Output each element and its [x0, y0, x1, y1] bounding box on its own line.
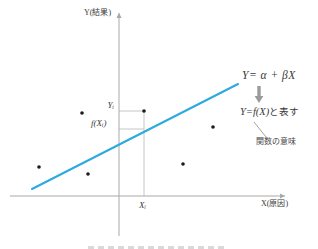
- y-axis-label: Y(結果): [84, 9, 111, 17]
- regression-diagram: Y(結果) X(原因) Yᵢ f(Xᵢ) Xᵢ Y= α + βX Y=f(X)…: [0, 0, 318, 249]
- function-formula-suffix: と表す: [269, 106, 299, 117]
- x-axis-arrowhead-icon: [280, 193, 285, 198]
- scatter-dot: [80, 111, 84, 115]
- regression-line: [32, 84, 238, 189]
- model-formula: Y= α + βX: [242, 70, 296, 82]
- x-axis-label: X(原因): [261, 200, 288, 208]
- y-axis-arrowhead-icon: [116, 13, 121, 18]
- scatter-dot: [181, 162, 185, 166]
- scatter-dot: [211, 125, 215, 129]
- plot-canvas: [0, 0, 318, 249]
- f-x-i-tick-label: f(Xᵢ): [91, 119, 106, 128]
- function-formula: Y=f(X)と表す: [240, 106, 299, 118]
- x-i-tick-label: Xᵢ: [139, 201, 146, 210]
- function-formula-math: Y=f(X): [240, 106, 269, 117]
- scatter-dot: [142, 109, 146, 113]
- scatter-dot: [37, 165, 41, 169]
- cropped-caption: [88, 246, 228, 249]
- leader-line: [254, 122, 266, 137]
- scatter-dot: [86, 172, 90, 176]
- down-block-arrow-icon: [255, 86, 264, 103]
- y-i-tick-label: Yᵢ: [96, 101, 114, 110]
- function-note-label: 関数の意味: [256, 138, 296, 146]
